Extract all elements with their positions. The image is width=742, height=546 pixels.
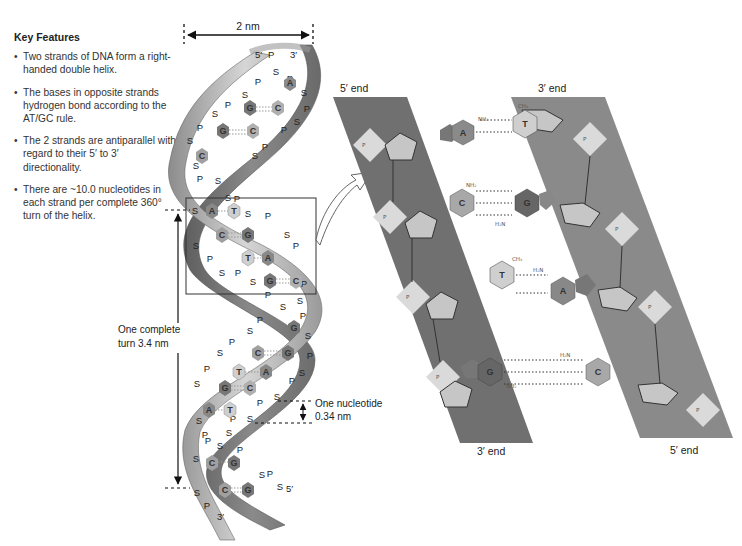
svg-text:S: S [194,378,200,389]
svg-text:G: G [244,485,251,495]
svg-text:S: S [215,175,221,186]
svg-text:P: P [197,122,203,133]
svg-text:A: A [209,206,216,216]
svg-text:S: S [250,276,256,287]
svg-text:T: T [231,206,237,216]
svg-text:S: S [217,440,223,451]
svg-text:G: G [290,323,297,333]
svg-text:G: G [230,458,237,468]
svg-text:S: S [192,205,198,216]
svg-text:S: S [299,367,305,378]
svg-text:S: S [226,427,232,438]
svg-text:P: P [255,76,261,87]
svg-text:A: A [287,78,294,88]
svg-text:S: S [252,150,258,161]
svg-text:C: C [595,367,602,377]
svg-text:P: P [262,141,268,152]
svg-text:P: P [205,435,211,446]
svg-text:A: A [206,405,213,415]
svg-text:P: P [204,500,210,511]
svg-text:P: P [257,314,263,325]
nucleotide-label-line1: One nucleotide [315,398,383,409]
svg-text:T: T [227,405,233,415]
svg-text:S: S [193,240,199,251]
svg-text:S: S [247,413,253,424]
right-backbone-band [511,97,733,438]
top-5prime-label: 5′ [255,49,262,60]
svg-text:S: S [284,229,290,240]
svg-text:A: A [460,128,467,138]
bottom-5prime-label: 5′ [286,483,293,494]
svg-text:T: T [499,270,505,280]
left-top-end-label: 5′ end [340,82,368,94]
top-3prime-label: 3′ [290,49,297,60]
svg-text:S: S [225,192,231,203]
svg-text:P: P [257,397,263,408]
callout-arrow-icon [316,172,372,245]
svg-text:S: S [273,66,279,77]
svg-text:T: T [522,119,528,129]
svg-text:G: G [244,230,251,240]
svg-text:C: C [219,230,226,240]
detail-structure: 5′ end 3′ end 3′ end 5′ end P P P P P P [333,82,733,457]
base-pair: G C [244,100,284,116]
detail-base-pair: C G NH₂ H₂N [450,182,555,227]
svg-text:H₂N: H₂N [533,267,543,273]
svg-text:C: C [222,485,229,495]
svg-text:P: P [293,240,299,251]
svg-text:S: S [280,301,286,312]
svg-text:P: P [304,103,310,114]
svg-text:P: P [307,350,313,361]
svg-text:G: G [246,103,253,113]
svg-text:S: S [274,391,280,402]
svg-text:S: S [242,89,248,100]
svg-text:S: S [245,208,251,219]
svg-text:P: P [267,468,273,479]
right-bottom-end-label: 5′ end [670,444,698,456]
svg-text:C: C [293,276,300,286]
svg-text:P: P [237,444,243,455]
svg-text:A: A [560,286,567,296]
svg-text:NH₂: NH₂ [478,116,488,122]
svg-text:P: P [265,210,271,221]
svg-text:C: C [275,103,282,113]
svg-text:C: C [459,198,466,208]
svg-text:S: S [194,487,200,498]
svg-text:S: S [187,135,193,146]
dna-diagram: 2 nm 5′ P 3′ 5′ 3′ S P S P S P S P S P S… [0,0,742,546]
svg-text:C: C [209,458,216,468]
svg-text:CH₃: CH₃ [518,103,528,109]
top-P-label: P [268,49,274,60]
svg-text:P: P [229,336,235,347]
svg-text:P: P [204,363,210,374]
svg-text:CH₃: CH₃ [512,256,522,262]
svg-text:P: P [225,99,231,110]
svg-text:C: C [199,151,206,161]
left-bottom-end-label: 3′ end [477,445,505,457]
turn-label-line1: One complete [118,324,181,335]
turn-dimension: One complete turn 3.4 nm [118,210,190,488]
svg-text:S: S [259,469,265,480]
svg-text:H₂N: H₂N [495,221,505,227]
width-label: 2 nm [236,20,260,32]
svg-text:T: T [236,367,242,377]
svg-text:C: C [247,383,254,393]
base-pair: G C [217,123,259,139]
svg-text:G: G [221,383,228,393]
svg-text:P: P [207,253,213,264]
svg-text:P: P [197,173,203,184]
svg-text:C: C [250,126,257,136]
nucleotide-label-line2: 0.34 nm [315,411,351,422]
svg-text:P: P [300,310,306,321]
svg-text:S: S [294,116,300,127]
svg-text:H₂N: H₂N [560,352,570,358]
svg-text:G: G [266,276,273,286]
base-pair: G C [264,273,302,289]
width-dimension: 2 nm [184,20,313,44]
svg-text:P: P [289,375,295,386]
svg-text:A: A [265,253,272,263]
svg-text:P: P [235,267,241,278]
svg-text:G: G [284,348,291,358]
svg-text:S: S [212,108,218,119]
turn-label-line2: turn 3.4 nm [118,338,169,349]
